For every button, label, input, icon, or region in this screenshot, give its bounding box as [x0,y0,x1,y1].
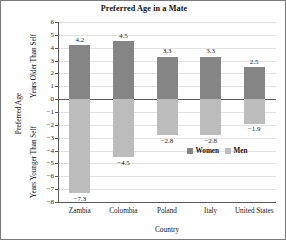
bar-value-label-women: 4.2 [61,36,98,44]
plot-inner: 4.2−7.34.5−4.53.3−2.83.3−2.82.5−1.9 [58,22,276,202]
bar-value-label-men: −2.8 [192,137,229,145]
y-tick-label: 3 [51,57,55,65]
bar-value-label-men: −2.8 [149,137,186,145]
y-tick-mark [55,86,58,87]
y-tick-mark [55,163,58,164]
y-tick-mark [55,22,58,23]
y-tick-mark [55,61,58,62]
x-category-label: United States [232,207,276,215]
bar-men [244,99,265,123]
y-tick-mark [55,151,58,152]
y-tick-label: −5 [47,159,54,167]
y-tick-label: −8 [47,198,54,206]
y-tick-label: −3 [47,134,54,142]
y-axis-label-upper-text: Years Older Than Self [30,34,38,98]
y-axis-label-outer-text: Preferred Age [14,92,23,133]
x-category-label: Poland [145,207,189,215]
bar-men [157,99,178,135]
bar-value-label-men: −4.5 [105,159,142,167]
gridline [58,163,276,164]
y-tick-mark [55,99,58,100]
x-axis-line [58,202,276,203]
y-tick-mark [55,125,58,126]
y-tick-label: 5 [51,31,55,39]
bar-men [200,99,221,135]
chart-title: Preferred Age in a Mate [1,4,286,13]
bar-value-label-women: 3.3 [192,47,229,55]
bar-value-label-men: −1.9 [236,125,273,133]
x-axis-label: Country [58,225,276,234]
y-tick-label: 1 [51,82,55,90]
y-axis-line [58,22,59,202]
bar-women [244,67,265,99]
gridline [58,22,276,23]
y-tick-label: −6 [47,172,54,180]
y-axis-label-lower: Years Younger Than Self [27,114,40,209]
legend-label: Men [234,147,248,155]
x-category-label: Italy [189,207,233,215]
bar-men [69,99,90,193]
x-category-label: Colombia [102,207,146,215]
bar-women [157,57,178,99]
chart-figure: Preferred Age in a Mate Preferred Age Ye… [0,0,286,240]
bar-men [113,99,134,157]
chart-legend: WomenMen [187,147,248,155]
y-axis-label-lower-text: Years Younger Than Self [30,126,38,198]
y-tick-label: −7 [47,185,54,193]
gridline [58,189,276,190]
y-tick-label: 2 [51,69,55,77]
y-tick-mark [55,35,58,36]
gridline [58,176,276,177]
y-axis-label-upper: Years Older Than Self [27,21,40,111]
y-tick-mark [55,48,58,49]
bar-women [113,41,134,99]
y-tick-mark [55,138,58,139]
y-tick-label: −1 [47,108,54,116]
y-tick-mark [55,202,58,203]
y-tick-mark [55,73,58,74]
y-tick-label: 0 [51,95,55,103]
bar-women [200,57,221,99]
x-category-label: Zambia [58,207,102,215]
y-tick-label: 6 [51,18,55,26]
legend-item: Women [187,147,219,155]
y-tick-mark [55,112,58,113]
bar-value-label-women: 3.3 [149,47,186,55]
y-axis-label-outer: Preferred Age [12,19,25,207]
bar-value-label-women: 4.5 [105,32,142,40]
y-tick-label: 4 [51,44,55,52]
y-tick-mark [55,176,58,177]
plot-area: 4.2−7.34.5−4.53.3−2.83.3−2.82.5−1.9 6543… [58,22,276,202]
legend-item: Men [225,147,247,155]
y-tick-label: −4 [47,147,54,155]
y-tick-mark [55,189,58,190]
legend-swatch-icon [187,148,193,154]
legend-swatch-icon [225,148,231,154]
bar-women [69,45,90,99]
bar-value-label-women: 2.5 [236,58,273,66]
legend-label: Women [196,147,220,155]
y-tick-label: −2 [47,121,54,129]
